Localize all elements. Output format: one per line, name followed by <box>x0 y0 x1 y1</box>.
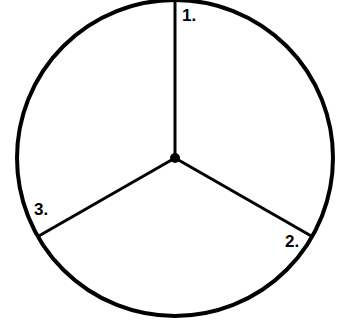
sector-diagram <box>0 0 340 330</box>
center-point <box>170 153 180 163</box>
divider-line-3 <box>37 158 175 237</box>
label-2: 2. <box>285 232 299 252</box>
label-3: 3. <box>34 200 48 220</box>
divider-line-2 <box>175 158 313 237</box>
label-1: 1. <box>182 6 196 26</box>
